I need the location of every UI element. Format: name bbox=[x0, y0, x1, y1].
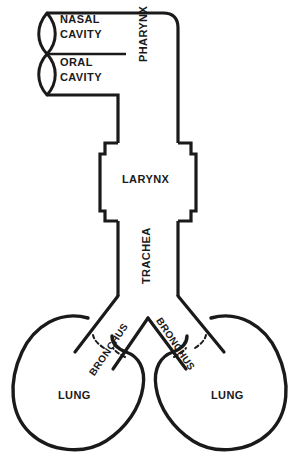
label-lung-right: LUNG bbox=[211, 388, 244, 403]
label-pharynx: PHARYNX bbox=[136, 6, 151, 62]
leader-line-bronchus-right-upper bbox=[195, 335, 206, 348]
oral-cavity-shape bbox=[39, 54, 56, 95]
label-nasal-cavity: NASAL CAVITY bbox=[60, 12, 102, 41]
respiratory-system-diagram: NASAL CAVITY ORAL CAVITY PHARYNX LARYNX … bbox=[0, 0, 299, 461]
label-trachea: TRACHEA bbox=[139, 227, 154, 284]
nasal-cavity-shape bbox=[39, 13, 56, 54]
label-lung-left: LUNG bbox=[58, 388, 91, 403]
label-oral-cavity: ORAL CAVITY bbox=[60, 55, 102, 84]
label-larynx: LARYNX bbox=[122, 172, 169, 187]
